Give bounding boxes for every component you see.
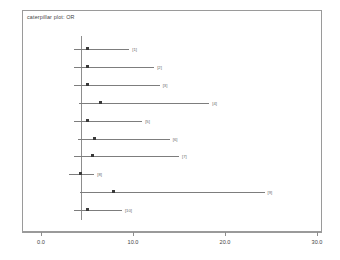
estimate-point-marker — [86, 47, 89, 50]
caterpillar-row: [4] — [0, 99, 340, 108]
estimate-point-marker — [79, 172, 82, 175]
x-axis-tick-label: 20.0 — [220, 239, 231, 245]
estimate-point-marker — [99, 101, 102, 104]
confidence-interval-line — [74, 210, 122, 211]
estimate-point-marker — [86, 119, 89, 122]
row-label: [1] — [132, 45, 137, 54]
row-label: [8] — [97, 170, 102, 179]
x-axis-tick-label: 30.0 — [312, 239, 323, 245]
x-axis-tick — [41, 232, 42, 236]
caterpillar-row: [8] — [0, 170, 340, 179]
caterpillar-row: [3] — [0, 81, 340, 90]
caterpillar-row: [6] — [0, 135, 340, 144]
estimate-point-marker — [86, 83, 89, 86]
estimate-point-marker — [91, 154, 94, 157]
estimate-point-marker — [86, 65, 89, 68]
confidence-interval-line — [78, 139, 170, 140]
estimate-point-marker — [93, 137, 96, 140]
plot-title: caterpillar plot: OR — [27, 14, 75, 20]
row-label: [2] — [157, 63, 162, 72]
row-label: [3] — [163, 81, 168, 90]
caterpillar-row: [1] — [0, 45, 340, 54]
confidence-interval-line — [74, 121, 142, 122]
confidence-interval-line — [80, 192, 265, 193]
confidence-interval-line — [74, 156, 179, 157]
x-axis-tick — [317, 232, 318, 236]
x-axis-tick — [225, 232, 226, 236]
caterpillar-row: [10] — [0, 206, 340, 215]
caterpillar-row: [5] — [0, 117, 340, 126]
row-label: [6] — [173, 135, 178, 144]
estimate-point-marker — [86, 208, 89, 211]
row-label: [7] — [182, 152, 187, 161]
caterpillar-row: [9] — [0, 188, 340, 197]
row-label: [4] — [212, 99, 217, 108]
row-label: [9] — [268, 188, 273, 197]
caterpillar-plot-figure: caterpillar plot: OR [1][2][3][4][5][6][… — [0, 0, 340, 260]
x-axis-tick-label: 10.0 — [128, 239, 139, 245]
row-label: [10] — [125, 206, 132, 215]
caterpillar-row: [2] — [0, 63, 340, 72]
caterpillar-row: [7] — [0, 152, 340, 161]
x-axis-tick-label: 0.0 — [37, 239, 45, 245]
x-axis-tick — [133, 232, 134, 236]
row-label: [5] — [145, 117, 150, 126]
confidence-interval-line — [74, 49, 129, 50]
x-axis-line — [22, 232, 322, 233]
estimate-point-marker — [112, 190, 115, 193]
